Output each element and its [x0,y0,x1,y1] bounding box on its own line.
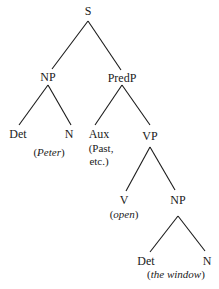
gloss-open-text: open [113,208,134,220]
branch-vp-v [126,147,150,191]
branch-predp-vp [122,85,150,125]
paren-close: ) [201,268,205,280]
gloss-peter-text: Peter [37,146,61,158]
branch-s-predp [88,21,121,70]
node-n-object: N [203,255,212,268]
branch-np-n-obj [178,216,205,251]
node-np-object: NP [170,194,185,207]
node-aux: Aux [89,128,110,141]
paren-close: ) [61,146,65,158]
node-np-subject: NP [40,71,55,84]
branch-predp-aux [95,85,122,125]
node-v: V [120,194,129,207]
node-vp: VP [142,130,157,143]
branch-np-det-obj [150,216,178,252]
node-det-subject: Det [9,128,26,141]
gloss-aux-line2: etc.) [89,155,108,167]
node-predp: PredP [108,72,137,85]
node-det-object: Det [137,255,154,268]
gloss-peter: (Peter) [33,146,64,158]
branch-np-det [19,85,48,125]
branch-s-np [52,21,88,69]
paren-close: ) [135,208,139,220]
gloss-aux-line1: (Past, [89,142,114,154]
gloss-the-window-text: the window [151,268,201,280]
gloss-open: (open) [110,208,139,220]
branch-np-n [48,85,71,125]
node-s: S [85,5,92,18]
gloss-the-window: (the window) [147,268,205,280]
branch-vp-np [150,147,175,190]
node-n-subject: N [65,128,74,141]
